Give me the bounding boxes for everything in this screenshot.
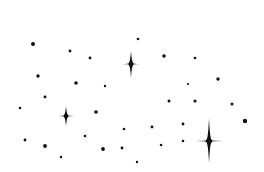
night-sky-illustration (0, 0, 264, 172)
dot-icon (31, 42, 35, 46)
dot-icon (231, 103, 234, 106)
dot-icon (36, 74, 39, 77)
dot-icon (193, 99, 196, 102)
dot-icon (243, 119, 247, 123)
dot-icon (60, 156, 62, 158)
dot-icon (24, 139, 27, 142)
dot-icon (168, 100, 171, 103)
dot-icon (19, 107, 22, 110)
sparkle-star-core (129, 62, 134, 67)
dot-icon (94, 110, 98, 114)
dot-icon (162, 54, 166, 58)
dot-icon (44, 96, 47, 99)
dot-icon (74, 81, 78, 85)
dot-icon (187, 83, 189, 85)
dot-icon (137, 38, 140, 41)
dot-icon (101, 147, 105, 151)
dot-icon (43, 144, 47, 148)
dot-icon (136, 161, 138, 163)
dot-icon (182, 140, 185, 143)
sparkle-star-core (206, 138, 211, 143)
dot-icon (151, 126, 154, 129)
dot-icon (194, 57, 197, 60)
dot-icon (123, 128, 126, 131)
dot-icon (84, 135, 87, 138)
sparkle-star-core (64, 114, 68, 118)
dot-icon (104, 85, 106, 87)
dot-icon (121, 147, 124, 150)
dots-layer (19, 38, 248, 164)
dot-icon (216, 77, 219, 80)
dot-icon (69, 50, 72, 53)
stars-layer (57, 51, 224, 163)
dot-icon (160, 144, 163, 147)
dot-icon (182, 123, 185, 126)
sky-svg (0, 0, 264, 172)
dot-icon (89, 57, 92, 60)
